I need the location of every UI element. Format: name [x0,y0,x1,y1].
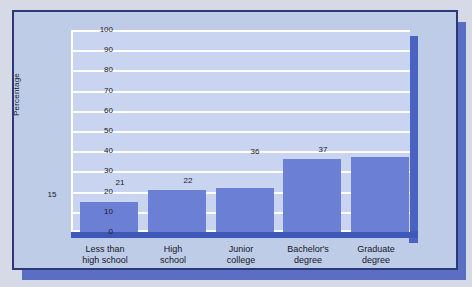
bar [148,190,206,232]
y-axis-tick-label: 10 [87,208,113,216]
x-axis-label-line: High [139,244,207,255]
y-axis-tick-label: 100 [87,26,113,34]
x-axis-label-line: degree [342,255,410,266]
y-axis-tick-label: 0 [87,228,113,236]
x-axis-label-line: college [207,255,275,266]
y-axis-tick-label: 60 [87,107,113,115]
gridline [73,70,410,72]
plot-base-face [71,231,418,238]
plot-area [71,30,410,232]
chart-panel: Percentage Less thanhigh schoolHighschoo… [12,10,458,270]
bar-value-label: 36 [226,148,284,156]
y-axis-tick-label: 40 [87,147,113,155]
y-axis-tick-label: 20 [87,188,113,196]
gridline [73,30,410,32]
bar [351,157,409,232]
bar-value-label: 22 [159,177,217,185]
x-axis-label-line: high school [71,255,139,266]
y-axis-tick-label: 50 [87,127,113,135]
gridline [73,111,410,113]
bar [283,159,341,232]
x-axis-labels: Less thanhigh schoolHighschoolJuniorcoll… [71,244,412,274]
y-axis-tick-label: 80 [87,66,113,74]
y-axis-title: Percentage [12,55,21,135]
chart-figure: Percentage Less thanhigh schoolHighschoo… [0,0,472,287]
bar [216,188,274,232]
x-axis-category-label: Bachelor'sdegree [274,244,342,266]
bar-value-label: 37 [294,146,352,154]
gridline [73,91,410,93]
x-axis-category-label: Juniorcollege [207,244,275,266]
x-axis-label-line: Less than [71,244,139,255]
gridline [73,50,410,52]
x-axis-category-label: Less thanhigh school [71,244,139,266]
x-axis-label-line: degree [274,255,342,266]
gridline [73,131,410,133]
x-axis-label-line: school [139,255,207,266]
y-axis-tick-label: 70 [87,87,113,95]
x-axis-label-line: Graduate [342,244,410,255]
plot-wrapper [69,30,421,242]
bar-value-label: 21 [91,179,149,187]
x-axis-label-line: Bachelor's [274,244,342,255]
y-axis-tick-label: 90 [87,46,113,54]
bar-value-label: 15 [23,191,81,199]
x-axis-category-label: Graduatedegree [342,244,410,266]
x-axis-category-label: Highschool [139,244,207,266]
x-axis-label-line: Junior [207,244,275,255]
plot-side-face [409,36,418,243]
y-axis-tick-label: 30 [87,167,113,175]
